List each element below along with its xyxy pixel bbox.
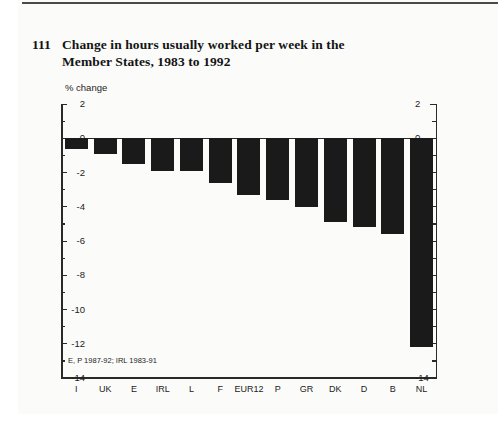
y-tick-label-right--6: -6 [415,236,423,246]
page-left-margin [0,0,18,441]
bar-GR [295,138,318,207]
bar-P [266,138,289,200]
page-background: 111 Change in hours usually worked per w… [0,0,498,441]
x-tick-label-D: D [361,384,368,394]
x-tick-label-IRL: IRL [156,384,170,394]
chart-container: % change 20-2-4-6-8-10-12-14 20-2-4-6-8-… [33,82,467,402]
bar-F [209,138,232,183]
x-tick-label-F: F [217,384,223,394]
bar-E [122,138,145,164]
x-tick-label-NL: NL [416,384,428,394]
x-tick-label-B: B [390,384,396,394]
y-tick-label-right--2: -2 [415,168,423,178]
y-tick-label-right-0: 0 [415,133,420,143]
y-tick-label-left-0: 0 [80,133,85,143]
figure-title: Change in hours usually worked per week … [62,36,372,70]
x-tick-label-EUR12: EUR12 [234,384,263,394]
y-tick-label-left--14: -14 [71,373,85,383]
y-tick-label-right--12: -12 [415,339,429,349]
x-tick-label-I: I [75,384,78,394]
bar-L [180,138,203,171]
bar-IRL [151,138,174,171]
y-tick-label-right--10: -10 [415,305,429,315]
y-tick-label-right--4: -4 [415,202,423,212]
page-top-rule [22,2,498,4]
y-tick-label-left--10: -10 [71,305,85,315]
bar-series [62,104,436,378]
bar-DK [324,138,347,222]
bar-EUR12 [237,138,260,195]
y-tick-label-left-2: 2 [80,99,85,109]
x-tick-label-UK: UK [99,384,112,394]
y-tick-label-left--12: -12 [71,339,85,349]
bar-UK [94,138,117,153]
y-tick-label-left--8: -8 [77,270,85,280]
y-tick-label-right--14: -14 [415,373,429,383]
page-bottom-margin [0,414,498,441]
bar-B [381,138,404,234]
y-tick-label-left--4: -4 [77,202,85,212]
x-tick-label-L: L [189,384,194,394]
y-tick-label-right-2: 2 [415,99,420,109]
y-tick-label-right--8: -8 [415,270,423,280]
figure-number: 111 [32,36,62,53]
x-tick-label-DK: DK [329,384,342,394]
y-tick-label-left--2: -2 [77,168,85,178]
bar-D [353,138,376,227]
x-tick-label-P: P [275,384,281,394]
plot-area [61,104,437,378]
x-tick-label-E: E [131,384,137,394]
figure-title-block: 111 Change in hours usually worked per w… [32,36,372,70]
x-tick-label-GR: GR [300,384,314,394]
y-tick-label-left--6: -6 [77,236,85,246]
y-axis-units-label: % change [65,82,107,93]
chart-footnote: E, P 1987-92; IRL 1983-91 [68,356,157,365]
